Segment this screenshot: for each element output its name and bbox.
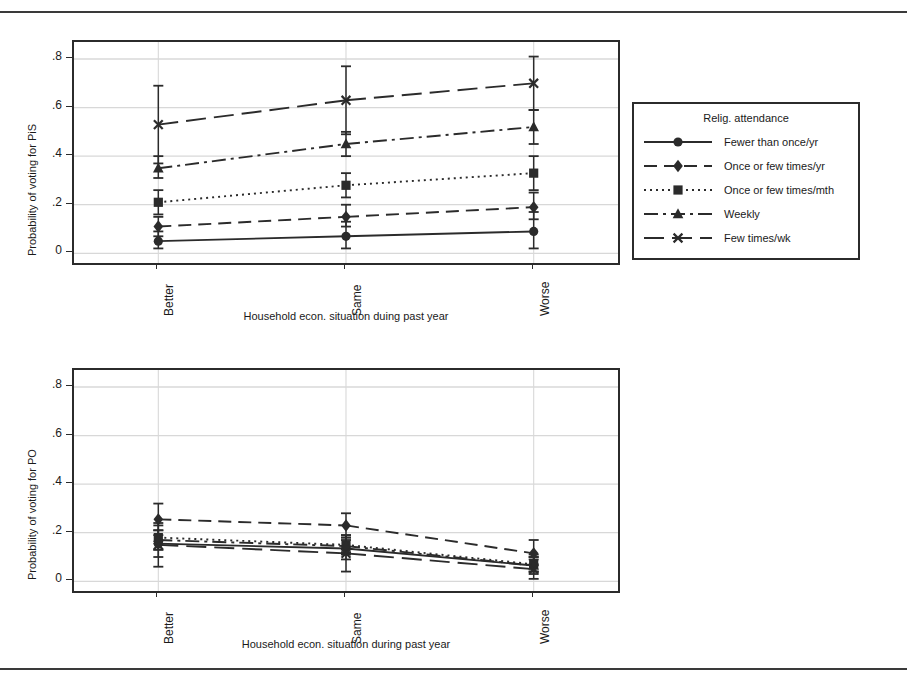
y-tick-mark xyxy=(66,482,72,483)
y-tick-label: .2 xyxy=(36,523,62,537)
y-tick-label: .4 xyxy=(36,146,62,160)
plot-svg-pis xyxy=(74,42,618,263)
legend-item-label: Once or few times/yr xyxy=(716,160,825,172)
y-tick-mark xyxy=(66,57,72,58)
y-axis-title: Probability of voting for PO xyxy=(26,449,38,580)
y-tick-label: .4 xyxy=(36,474,62,488)
y-axis-title: Probability of voting for PiS xyxy=(26,124,38,256)
y-tick-label: .2 xyxy=(36,195,62,209)
y-tick-label: .8 xyxy=(36,377,62,391)
plot-area-pis xyxy=(72,40,620,265)
legend-key-triangle-icon xyxy=(642,205,716,223)
y-tick-mark xyxy=(66,154,72,155)
plot-area-po xyxy=(72,368,620,593)
y-tick-mark xyxy=(66,203,72,204)
page-rule-bottom xyxy=(0,668,907,670)
legend-item-label: Once or few times/mth xyxy=(716,184,834,196)
y-tick-mark xyxy=(66,106,72,107)
y-tick-label: .6 xyxy=(36,426,62,440)
legend-item-label: Few times/wk xyxy=(716,232,791,244)
legend-key-square-icon xyxy=(642,181,716,199)
x-tick-mark xyxy=(344,263,345,269)
x-tick-mark xyxy=(156,263,157,269)
plot-svg-po xyxy=(74,370,618,591)
legend-item-label: Weekly xyxy=(716,208,760,220)
chart-panel-po: Probability of voting for PO 0.2.4.6.8 B… xyxy=(0,348,907,668)
x-axis-title: Household econ. situation during past ye… xyxy=(72,638,620,650)
legend-pis: Relig. attendance Fewer than once/yrOnce… xyxy=(632,102,860,260)
y-tick-mark xyxy=(66,434,72,435)
legend-key-cross-icon xyxy=(642,229,716,247)
legend-item-square[interactable]: Once or few times/mth xyxy=(634,178,858,202)
legend-item-circle[interactable]: Fewer than once/yr xyxy=(634,130,858,154)
legend-item-cross[interactable]: Few times/wk xyxy=(634,226,858,250)
page-rule-top xyxy=(0,11,907,13)
x-tick-mark xyxy=(344,591,345,597)
x-tick-mark xyxy=(532,591,533,597)
x-axis-title: Household econ. situation duing past yea… xyxy=(72,310,620,322)
legend-items-pis: Fewer than once/yrOnce or few times/yrOn… xyxy=(634,130,858,250)
legend-item-triangle[interactable]: Weekly xyxy=(634,202,858,226)
y-tick-label: 0 xyxy=(36,571,62,585)
y-tick-mark xyxy=(66,531,72,532)
x-tick-mark xyxy=(532,263,533,269)
legend-title: Relig. attendance xyxy=(634,112,858,124)
y-tick-label: 0 xyxy=(36,243,62,257)
legend-key-circle-icon xyxy=(642,133,716,151)
y-tick-mark xyxy=(66,579,72,580)
y-tick-mark xyxy=(66,385,72,386)
y-tick-label: .8 xyxy=(36,49,62,63)
legend-item-label: Fewer than once/yr xyxy=(716,136,818,148)
y-tick-label: .6 xyxy=(36,98,62,112)
legend-item-diamond[interactable]: Once or few times/yr xyxy=(634,154,858,178)
legend-key-diamond-icon xyxy=(642,157,716,175)
chart-panel-pis: Probability of voting for PiS 0.2.4.6.8 … xyxy=(0,20,907,340)
y-tick-mark xyxy=(66,251,72,252)
x-tick-mark xyxy=(156,591,157,597)
